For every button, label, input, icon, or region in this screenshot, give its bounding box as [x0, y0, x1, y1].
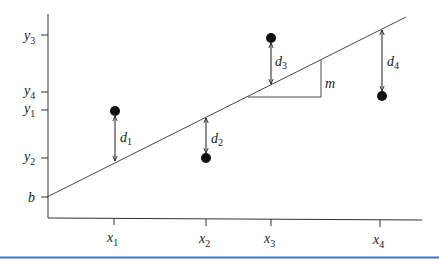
svg-text:y3: y3	[22, 28, 35, 46]
data-point-3	[266, 33, 276, 43]
svg-text:x1: x1	[106, 230, 118, 248]
y-tick-labels: y3 y4 y1 y2 b	[22, 28, 35, 205]
deviation-labels: d1 d2 d3 d4	[120, 54, 399, 148]
data-point-1	[110, 106, 120, 116]
x-axis	[48, 218, 422, 220]
svg-text:d2: d2	[211, 131, 223, 148]
svg-text:x4: x4	[372, 232, 384, 250]
svg-text:y2: y2	[22, 149, 35, 167]
svg-text:d3: d3	[275, 54, 287, 71]
intercept-label: b	[28, 190, 35, 205]
svg-text:x3: x3	[263, 231, 275, 249]
svg-text:y1: y1	[22, 101, 35, 119]
regression-diagram: y3 y4 y1 y2 b x1 x2 x3 x4 m d1 d2 d3 d4	[0, 0, 439, 263]
data-point-4	[377, 91, 387, 101]
data-points	[110, 33, 387, 163]
svg-text:x2: x2	[198, 231, 210, 249]
y-ticks	[41, 35, 48, 197]
data-point-2	[201, 153, 211, 163]
slope-label: m	[325, 76, 335, 91]
svg-text:d1: d1	[120, 130, 132, 147]
svg-text:y4: y4	[22, 83, 35, 101]
x-tick-labels: x1 x2 x3 x4	[106, 230, 384, 250]
regression-line	[47, 17, 406, 197]
svg-text:d4: d4	[387, 54, 399, 71]
